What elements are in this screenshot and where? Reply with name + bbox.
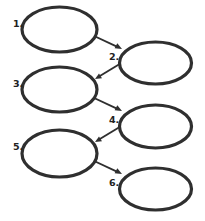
arrow-line <box>92 97 119 109</box>
node-group: 1. 2. 3. 4. 5. <box>13 7 192 210</box>
node-5[interactable]: 5. <box>13 130 97 177</box>
node-number-label: 1. <box>13 18 23 29</box>
node-6[interactable]: 6. <box>109 168 192 210</box>
node-1[interactable]: 1. <box>13 7 97 52</box>
node-shape-ellipse[interactable] <box>120 105 192 148</box>
flowchart-diagram: 1. 2. 3. 4. 5. <box>0 0 205 221</box>
node-number-label: 2. <box>109 51 119 62</box>
node-shape-ellipse[interactable] <box>22 130 97 177</box>
node-4[interactable]: 4. <box>109 105 192 148</box>
flowchart-canvas: 1. 2. 3. 4. 5. <box>0 0 205 221</box>
node-shape-ellipse[interactable] <box>22 67 97 112</box>
arrow-node3-to-node4 <box>92 97 122 111</box>
node-number-label: 3. <box>13 78 23 89</box>
arrow-node5-to-node6 <box>92 160 122 174</box>
node-number-label: 6. <box>109 177 119 188</box>
node-3[interactable]: 3. <box>13 67 97 112</box>
node-shape-ellipse[interactable] <box>22 7 97 52</box>
node-shape-ellipse[interactable] <box>120 168 192 210</box>
node-number-label: 5. <box>13 141 23 152</box>
node-number-label: 4. <box>109 114 119 125</box>
node-shape-ellipse[interactable] <box>120 42 192 84</box>
